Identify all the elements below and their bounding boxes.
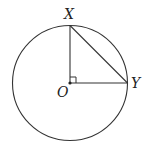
- center-point: [68, 81, 71, 84]
- label-o: O: [57, 84, 69, 100]
- label-x: X: [63, 6, 75, 22]
- chord-xy: [70, 26, 128, 84]
- label-y: Y: [131, 75, 142, 91]
- circle-diagram: X Y O: [0, 0, 144, 151]
